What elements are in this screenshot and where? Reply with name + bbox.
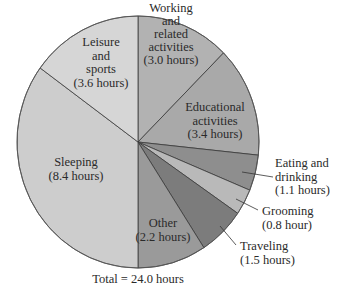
total-label: Total = 24.0 hours: [92, 272, 184, 286]
leader-line: [220, 226, 236, 245]
slice-label: Grooming(0.8 hour): [262, 204, 314, 232]
slice-label: Sleeping(8.4 hours): [49, 155, 104, 183]
slice-label: Traveling(1.5 hours): [240, 239, 295, 267]
pie-chart: Workingandrelatedactivities(3.0 hours)Ed…: [0, 0, 343, 287]
slice-label: Educationalactivities(3.4 hours): [185, 100, 245, 141]
slice-label: Eating anddrinking(1.1 hours): [275, 156, 330, 197]
